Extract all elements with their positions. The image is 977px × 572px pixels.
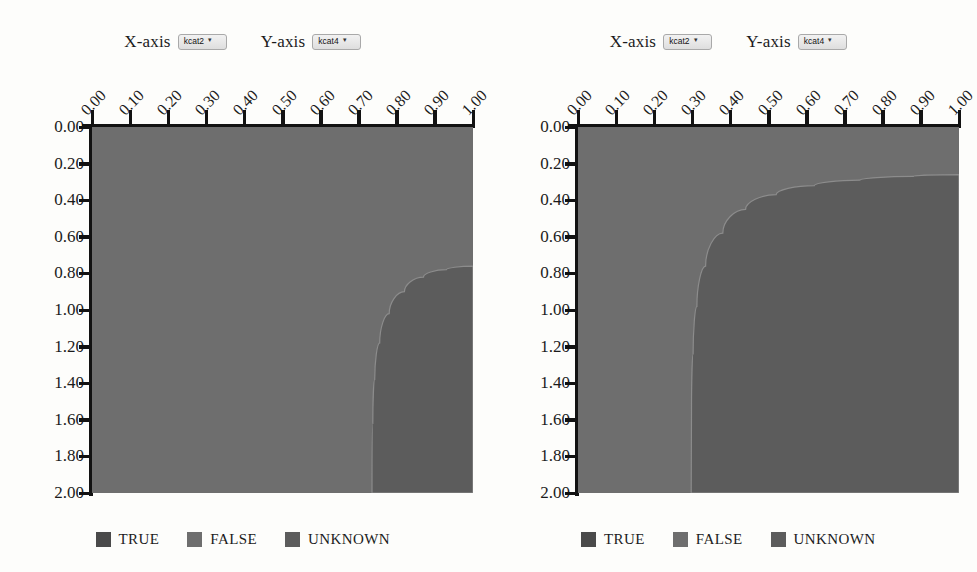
legend-swatch-false	[673, 532, 688, 547]
y-axis-tick	[565, 126, 577, 130]
y-axis-tick	[79, 418, 91, 422]
region-unknown	[372, 266, 473, 493]
x-axis-tick	[357, 110, 361, 125]
legend-label: UNKNOWN	[794, 531, 876, 548]
x-axis-tick	[729, 110, 733, 125]
plot-area[interactable]	[578, 127, 959, 493]
plot-area[interactable]	[92, 127, 473, 493]
heatmap-chart-left: 0.000.200.400.600.801.001.201.401.601.80…	[0, 0, 486, 572]
x-axis-tick	[767, 110, 771, 125]
heatmap-chart-right: 0.000.200.400.600.801.001.201.401.601.80…	[486, 0, 972, 572]
x-axis-tick	[691, 110, 695, 125]
x-axis-tick	[91, 110, 95, 125]
x-axis-tick	[167, 110, 171, 125]
y-axis-tick-labels: 0.000.200.400.600.801.001.201.401.601.80…	[34, 127, 84, 493]
y-axis-tick	[79, 162, 91, 166]
y-axis-tick	[79, 345, 91, 349]
legend-label: TRUE	[604, 531, 645, 548]
y-axis-tick	[565, 455, 577, 459]
x-axis-tick	[653, 110, 657, 125]
x-axis-tick	[243, 110, 247, 125]
x-axis-tick	[577, 110, 581, 125]
y-axis-tick	[565, 309, 577, 313]
y-axis-tick	[79, 382, 91, 386]
legend-item[interactable]: FALSE	[673, 531, 743, 548]
y-axis-tick	[565, 345, 577, 349]
legend-swatch-true	[96, 532, 111, 547]
x-axis-tick	[843, 110, 847, 125]
legend-item[interactable]: TRUE	[581, 531, 645, 548]
legend-label: FALSE	[696, 531, 743, 548]
y-axis-tick	[79, 235, 91, 239]
y-axis-tick	[565, 199, 577, 203]
y-axis-tick	[79, 199, 91, 203]
y-axis-tick	[565, 382, 577, 386]
x-axis-tick	[958, 110, 962, 125]
x-axis-tick	[319, 110, 323, 125]
y-axis-tick	[79, 272, 91, 276]
y-axis-tick	[565, 418, 577, 422]
legend-right: TRUEFALSEUNKNOWN	[486, 531, 972, 548]
y-axis-tick	[79, 455, 91, 459]
y-axis-tick	[565, 272, 577, 276]
legend-label: UNKNOWN	[308, 531, 390, 548]
x-axis-tick	[881, 110, 885, 125]
legend-label: TRUE	[119, 531, 160, 548]
x-axis-tick	[472, 110, 476, 125]
x-axis-tick	[615, 110, 619, 125]
legend-swatch-unknown	[285, 532, 300, 547]
x-axis-tick	[433, 110, 437, 125]
region-unknown	[691, 175, 959, 493]
y-axis-tick	[565, 492, 577, 496]
legend-item[interactable]: TRUE	[96, 531, 160, 548]
legend-item[interactable]: UNKNOWN	[285, 531, 390, 548]
y-axis-tick-labels: 0.000.200.400.600.801.001.201.401.601.80…	[520, 127, 570, 493]
left-panel: X-axis kcat2 ▾ Y-axis kcat4 ▾ 0.000.200.…	[0, 0, 486, 572]
x-axis-tick	[281, 110, 285, 125]
legend-label: FALSE	[210, 531, 257, 548]
x-axis-tick	[919, 110, 923, 125]
legend-swatch-false	[187, 532, 202, 547]
legend-item[interactable]: FALSE	[187, 531, 257, 548]
x-axis-tick	[205, 110, 209, 125]
y-axis-tick	[79, 309, 91, 313]
y-axis-tick	[79, 492, 91, 496]
y-axis-tick	[565, 235, 577, 239]
legend-item[interactable]: UNKNOWN	[771, 531, 876, 548]
legend-left: TRUEFALSEUNKNOWN	[0, 531, 486, 548]
x-axis-tick	[805, 110, 809, 125]
y-axis-tick	[79, 126, 91, 130]
y-axis-tick	[565, 162, 577, 166]
legend-swatch-unknown	[771, 532, 786, 547]
x-axis-tick	[395, 110, 399, 125]
legend-swatch-true	[581, 532, 596, 547]
right-panel: X-axis kcat2 ▾ Y-axis kcat4 ▾ 0.000.200.…	[486, 0, 972, 572]
x-axis-tick	[129, 110, 133, 125]
